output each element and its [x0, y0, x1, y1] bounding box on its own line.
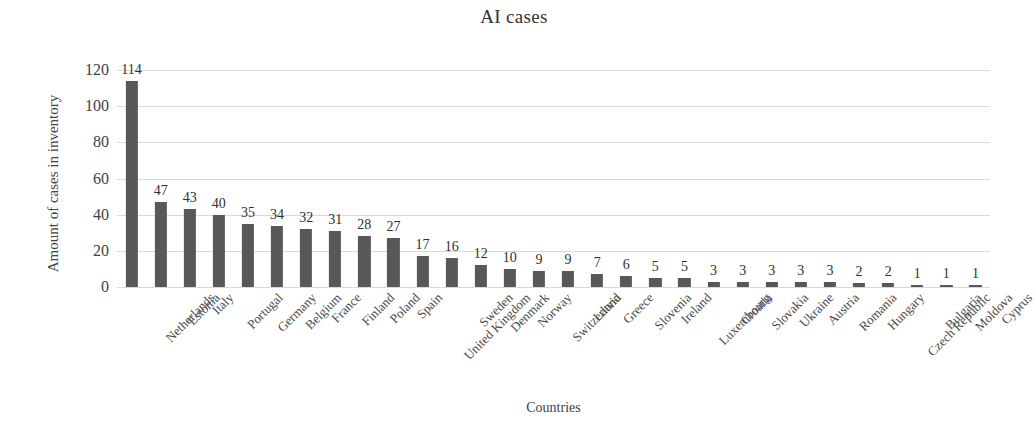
bar-value-label: 12 [474, 246, 488, 262]
bar-value-label: 3 [739, 263, 746, 279]
gridline [117, 287, 990, 288]
bar-value-label: 1 [914, 266, 921, 282]
bar-value-label: 7 [594, 255, 601, 271]
bar-group[interactable]: 12 [466, 70, 495, 287]
bar-group[interactable]: 3 [757, 70, 786, 287]
bar-group[interactable]: 34 [263, 70, 292, 287]
bar-group[interactable]: 3 [728, 70, 757, 287]
bar-group[interactable]: 2 [874, 70, 903, 287]
bar-value-label: 10 [503, 250, 517, 266]
bar-value-label: 6 [623, 257, 630, 273]
bar-group[interactable]: 9 [524, 70, 553, 287]
bar[interactable] [737, 282, 749, 287]
bar[interactable] [504, 269, 516, 287]
bar[interactable] [242, 224, 254, 287]
bar-group[interactable]: 6 [612, 70, 641, 287]
x-axis-category-labels: NetherlandsEstoniaItalyPortugalGermanyBe… [117, 290, 990, 395]
bar[interactable] [475, 265, 487, 287]
bar[interactable] [416, 256, 428, 287]
bar[interactable] [358, 236, 370, 287]
bar-group[interactable]: 3 [699, 70, 728, 287]
bar-group[interactable]: 114 [117, 70, 146, 287]
bar-group[interactable]: 43 [175, 70, 204, 287]
bar-group[interactable]: 10 [495, 70, 524, 287]
bar-value-label: 2 [885, 264, 892, 280]
bar-value-label: 9 [565, 252, 572, 268]
bar-group[interactable]: 1 [903, 70, 932, 287]
bar-value-label: 3 [826, 263, 833, 279]
bar[interactable] [766, 282, 778, 287]
bar-group[interactable]: 31 [321, 70, 350, 287]
bar[interactable] [533, 271, 545, 287]
bar-group[interactable]: 3 [786, 70, 815, 287]
bar[interactable] [387, 238, 399, 287]
bar[interactable] [940, 285, 952, 287]
bar[interactable] [969, 285, 981, 287]
bar[interactable] [271, 226, 283, 287]
y-axis-ticks: 020406080100120 [45, 70, 109, 287]
bar[interactable] [125, 81, 137, 287]
bar[interactable] [911, 285, 923, 287]
bar-group[interactable]: 5 [641, 70, 670, 287]
bar-group[interactable]: 35 [233, 70, 262, 287]
bar-value-label: 5 [652, 259, 659, 275]
x-axis-category-label: Spain [414, 290, 446, 322]
bar[interactable] [853, 283, 865, 287]
bar-value-label: 28 [357, 217, 371, 233]
bar[interactable] [213, 215, 225, 287]
bar-group[interactable]: 1 [961, 70, 990, 287]
bar-value-label: 31 [328, 212, 342, 228]
bar[interactable] [591, 274, 603, 287]
bar-group[interactable]: 27 [379, 70, 408, 287]
y-axis-tick-label: 40 [45, 206, 109, 224]
bar[interactable] [620, 276, 632, 287]
bar[interactable] [184, 209, 196, 287]
bar-value-label: 47 [154, 183, 168, 199]
y-axis-tick-label: 120 [45, 61, 109, 79]
bar[interactable] [329, 231, 341, 287]
bar[interactable] [882, 283, 894, 287]
bar-value-label: 9 [535, 252, 542, 268]
bar-group[interactable]: 3 [815, 70, 844, 287]
plot-area: 1144743403534323128271716121099765533333… [117, 70, 990, 287]
bar-value-label: 43 [183, 190, 197, 206]
bar-value-label: 40 [212, 196, 226, 212]
x-axis-category-label: Latvia [590, 290, 625, 325]
bar-group[interactable]: 28 [350, 70, 379, 287]
bar-value-label: 1 [943, 266, 950, 282]
bar-value-label: 1 [972, 266, 979, 282]
y-axis-tick-label: 20 [45, 242, 109, 260]
bar-group[interactable]: 5 [670, 70, 699, 287]
bar-value-label: 3 [710, 263, 717, 279]
bar[interactable] [446, 258, 458, 287]
bar-group[interactable]: 7 [583, 70, 612, 287]
bar-value-label: 35 [241, 205, 255, 221]
bar-value-label: 5 [681, 259, 688, 275]
bar[interactable] [155, 202, 167, 287]
bar-group[interactable]: 2 [845, 70, 874, 287]
bar-group[interactable]: 1 [932, 70, 961, 287]
bar-group[interactable]: 32 [292, 70, 321, 287]
bar-group[interactable]: 16 [437, 70, 466, 287]
y-axis-tick-label: 100 [45, 97, 109, 115]
bar-value-label: 3 [768, 263, 775, 279]
bar-group[interactable]: 17 [408, 70, 437, 287]
bar[interactable] [649, 278, 661, 287]
x-axis-title: Countries [117, 400, 990, 416]
bar[interactable] [707, 282, 719, 287]
y-axis-tick-label: 60 [45, 170, 109, 188]
bar[interactable] [824, 282, 836, 287]
bar-group[interactable]: 47 [146, 70, 175, 287]
bar[interactable] [562, 271, 574, 287]
bar[interactable] [678, 278, 690, 287]
y-axis-tick-label: 0 [45, 278, 109, 296]
bar-group[interactable]: 40 [204, 70, 233, 287]
chart-title: AI cases [0, 6, 1028, 28]
bar[interactable] [795, 282, 807, 287]
bar-value-label: 32 [299, 210, 313, 226]
bar[interactable] [300, 229, 312, 287]
bar-value-label: 114 [121, 62, 141, 78]
bar-group[interactable]: 9 [554, 70, 583, 287]
y-axis-tick-label: 80 [45, 133, 109, 151]
